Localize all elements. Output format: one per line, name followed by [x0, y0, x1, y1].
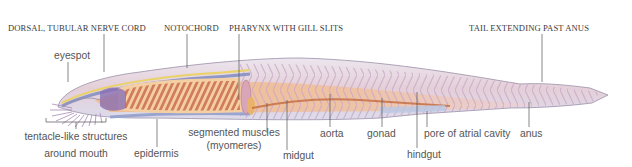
label-pore-atrial-cavity: pore of atrial cavity [424, 129, 510, 139]
label-muscles-1: segmented muscles [186, 128, 282, 138]
lancelet-diagram: DORSAL, TUBULAR NERVE CORD NOTOCHORD PHA… [0, 0, 632, 167]
label-pharynx: PHARYNX WITH GILL SLITS [229, 24, 343, 33]
label-nerve-cord: DORSAL, TUBULAR NERVE CORD [8, 24, 146, 33]
label-eyespot: eyespot [54, 51, 90, 61]
tentacle-bracket [46, 118, 106, 129]
label-anus: anus [520, 129, 542, 139]
label-hindgut: hindgut [407, 150, 441, 160]
label-midgut: midgut [283, 151, 314, 161]
label-epidermis: epidermis [134, 149, 179, 159]
label-gonad: gonad [367, 129, 396, 139]
label-aorta: aorta [320, 129, 343, 139]
label-muscles-2: (myomeres) [186, 141, 282, 151]
label-tentacles-2: around mouth [22, 149, 130, 159]
label-tentacles-1: tentacle-like structures [22, 132, 130, 142]
label-notochord: NOTOCHORD [164, 24, 219, 33]
label-tail: TAIL EXTENDING PAST ANUS [469, 24, 589, 33]
